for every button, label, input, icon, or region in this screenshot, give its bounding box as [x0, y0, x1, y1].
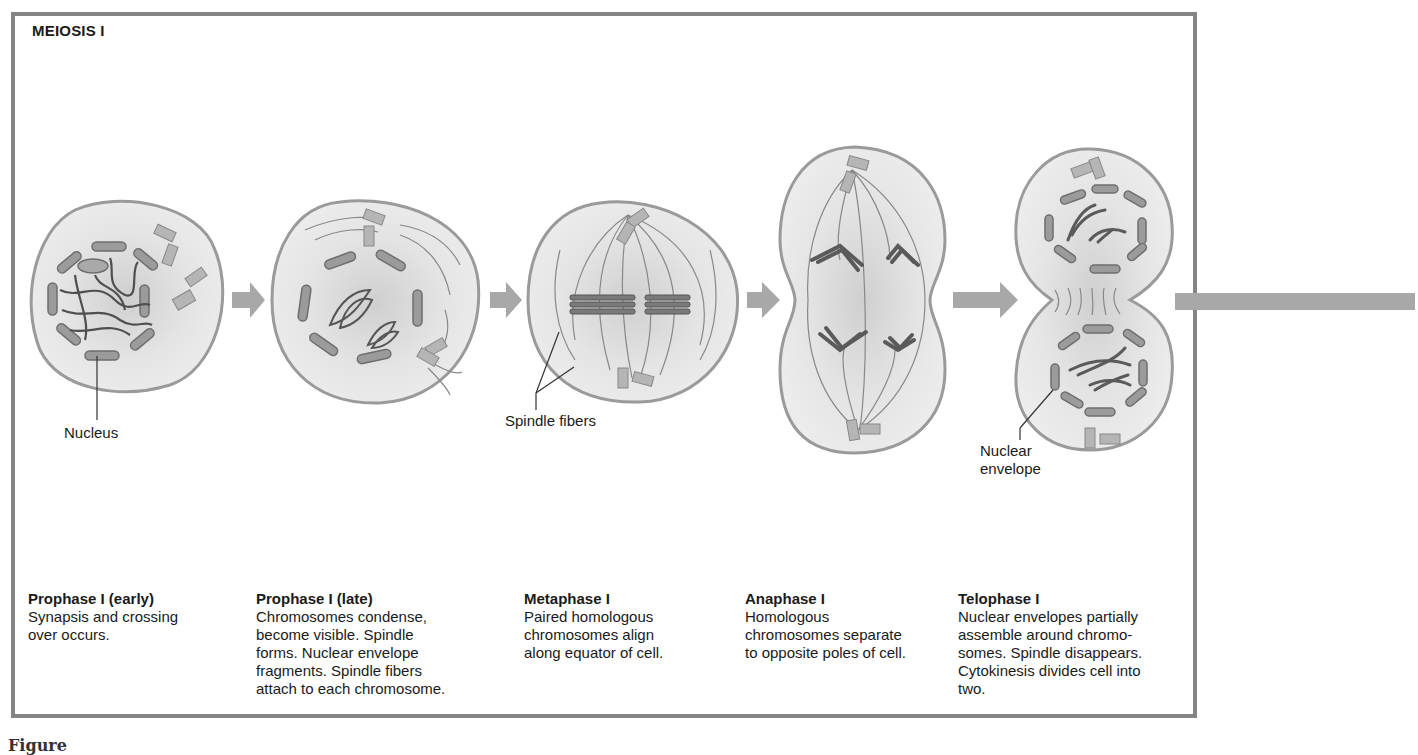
- caption-metaphase: Metaphase I Paired homologous chromosome…: [524, 590, 663, 662]
- figure-label: Figure: [8, 736, 67, 755]
- label-spindle-fibers: Spindle fibers: [505, 412, 596, 429]
- arrow-icon: [490, 282, 522, 318]
- stage-name: Prophase I (late): [256, 590, 445, 608]
- label-nuclear-envelope-line1: Nuclear: [980, 442, 1032, 459]
- caption-prophase-late: Prophase I (late) Chromosomes condense, …: [256, 590, 445, 698]
- label-nucleus: Nucleus: [64, 424, 118, 441]
- stage-description: Paired homologous chromosomes align alon…: [524, 608, 663, 662]
- cell-prophase-early: [31, 201, 223, 420]
- stage-description: Nuclear envelopes partially assemble aro…: [958, 608, 1142, 698]
- stage-name: Telophase I: [958, 590, 1142, 608]
- stage-name: Prophase I (early): [28, 590, 178, 608]
- stage-description: Synapsis and crossing over occurs.: [28, 608, 178, 644]
- stage-description: Homologous chromosomes separate to oppos…: [745, 608, 906, 662]
- stage-name: Metaphase I: [524, 590, 663, 608]
- cell-telophase: [1016, 149, 1173, 450]
- cell-prophase-late: [272, 201, 479, 403]
- caption-prophase-early: Prophase I (early) Synapsis and crossing…: [28, 590, 178, 644]
- label-nuclear-envelope-line2: envelope: [980, 460, 1041, 477]
- arrow-icon: [747, 282, 780, 318]
- arrow-icon: [953, 282, 1018, 318]
- cell-anaphase: [780, 147, 945, 453]
- arrow-icon: [232, 282, 265, 318]
- stage-description: Chromosomes condense, become visible. Sp…: [256, 608, 445, 698]
- continuation-arrow-bar: [1175, 293, 1415, 310]
- caption-anaphase: Anaphase I Homologous chromosomes separa…: [745, 590, 906, 662]
- caption-telophase: Telophase I Nuclear envelopes partially …: [958, 590, 1142, 698]
- cell-metaphase: [528, 202, 738, 410]
- stage-name: Anaphase I: [745, 590, 906, 608]
